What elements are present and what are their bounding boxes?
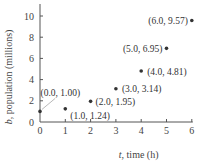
chart-canvas: 01234560246810(0.0, 1.00)(1.0, 1.24)(2.0…: [0, 0, 208, 165]
y-axis-label: b, population (millions): [3, 30, 15, 125]
data-point-label: (2.0, 1.95): [96, 97, 136, 108]
y-tick-label: 10: [24, 11, 34, 22]
data-point: [64, 107, 68, 111]
x-tick-label: 3: [113, 125, 118, 136]
data-point-label: (4.0, 4.81): [147, 67, 187, 78]
x-tick-label: 6: [189, 125, 194, 136]
data-point: [38, 110, 42, 114]
x-tick-label: 1: [63, 125, 68, 136]
y-tick-label: 0: [29, 117, 34, 128]
x-tick-label: 0: [38, 125, 43, 136]
x-tick-label: 2: [88, 125, 93, 136]
annotation-leader: [42, 98, 55, 109]
y-tick-label: 6: [29, 53, 34, 64]
data-point: [190, 19, 194, 23]
data-point: [165, 47, 169, 51]
data-point-label: (3.0, 3.14): [122, 84, 162, 95]
x-tick-label: 4: [139, 125, 144, 136]
data-point-label: (5.0, 6.95): [123, 44, 163, 55]
x-axis-label: t, time (h): [119, 149, 159, 161]
data-point-label: (1.0, 1.24): [70, 111, 110, 122]
y-tick-label: 2: [29, 95, 34, 106]
data-point: [139, 69, 143, 73]
x-tick-label: 5: [164, 125, 169, 136]
data-point: [114, 87, 118, 91]
scatter-chart: 01234560246810(0.0, 1.00)(1.0, 1.24)(2.0…: [0, 0, 208, 165]
data-point: [89, 100, 93, 104]
y-tick-label: 4: [29, 74, 34, 85]
data-point-label: (0.0, 1.00): [41, 88, 81, 99]
y-tick-label: 8: [29, 32, 34, 43]
data-point-label: (6.0, 9.57): [148, 16, 188, 27]
